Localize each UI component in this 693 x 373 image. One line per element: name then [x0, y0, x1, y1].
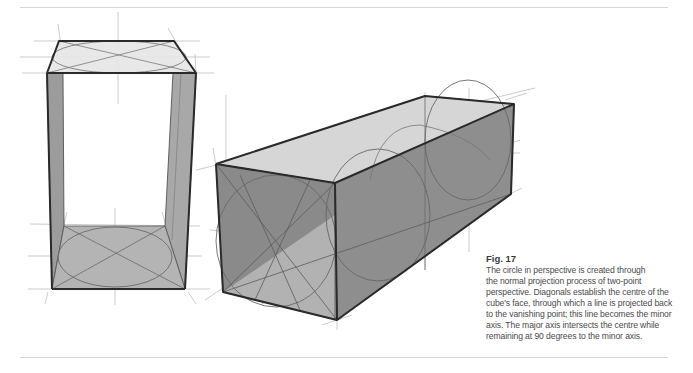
figure-label: Fig. 17	[486, 253, 686, 265]
caption-line: remaining at 90 degrees to the minor axi…	[486, 331, 686, 342]
caption-line: the normal projection process of two-poi…	[486, 276, 686, 287]
caption-line: perspective. Diagonals establish the cen…	[486, 287, 686, 298]
figure-caption: Fig. 17 The circle in perspective is cre…	[486, 253, 686, 342]
caption-line: cube's face, through which a line is pro…	[486, 298, 686, 309]
caption-line: axis. The major axis intersects the cent…	[486, 320, 686, 331]
caption-line: to the vanishing point; this line become…	[486, 309, 686, 320]
caption-line: The circle in perspective is created thr…	[486, 265, 686, 276]
horizontal-box	[196, 80, 535, 330]
vertical-box	[20, 12, 214, 305]
